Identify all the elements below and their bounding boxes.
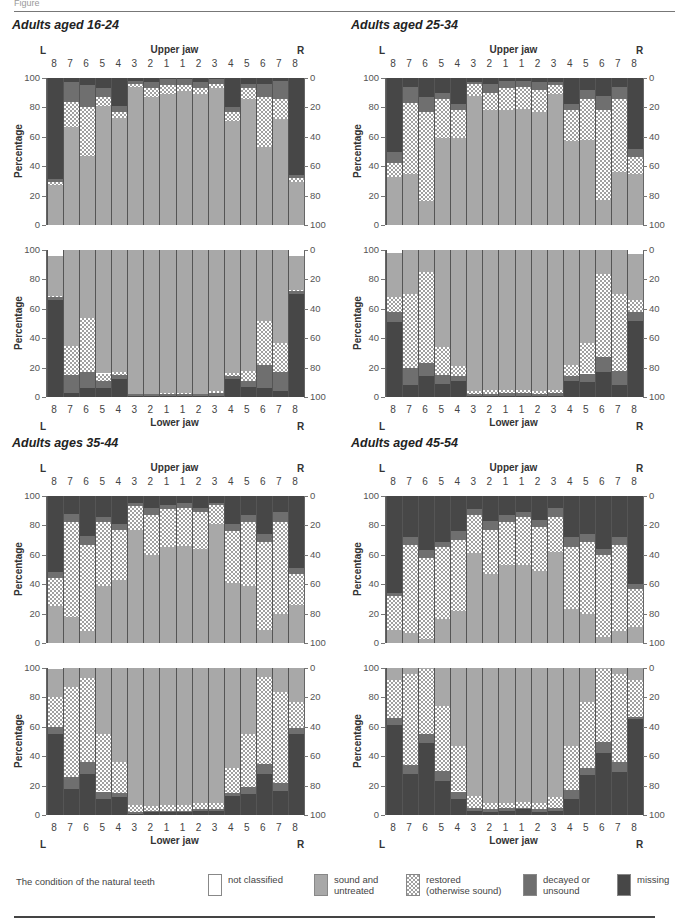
tooth-bar bbox=[95, 250, 111, 397]
axis-tick bbox=[304, 786, 308, 787]
left-axis-label: 100 bbox=[22, 662, 40, 673]
decayed-segment bbox=[580, 374, 595, 383]
restored-segment bbox=[177, 85, 192, 91]
restored-segment bbox=[225, 768, 240, 793]
tooth-bar bbox=[547, 250, 563, 397]
axis-tick bbox=[42, 309, 46, 310]
axis-tick bbox=[304, 78, 308, 79]
panel-25-34: Adults aged 25-34LRUpper jaw876543211234… bbox=[345, 18, 675, 428]
missing-segment bbox=[144, 78, 159, 82]
left-axis-label: 20 bbox=[361, 190, 379, 201]
tooth-number: 1 bbox=[514, 58, 530, 69]
missing-segment bbox=[193, 811, 208, 815]
missing-segment bbox=[112, 379, 127, 397]
tooth-number: 3 bbox=[465, 404, 481, 415]
restored-segment bbox=[209, 84, 224, 88]
notcl-segment bbox=[48, 250, 63, 256]
restored-segment bbox=[112, 762, 127, 793]
missing-segment bbox=[289, 294, 304, 397]
sound-segment bbox=[596, 668, 611, 669]
missing-segment bbox=[483, 812, 498, 815]
restored-segment bbox=[612, 674, 627, 762]
tooth-bar bbox=[224, 250, 240, 397]
tooth-number: 8 bbox=[626, 476, 642, 487]
decayed-segment bbox=[596, 357, 611, 372]
tooth-bar bbox=[482, 250, 498, 397]
missing-segment bbox=[612, 496, 627, 537]
decayed-segment bbox=[128, 81, 143, 84]
sound-segment bbox=[419, 639, 434, 643]
decayed-segment bbox=[548, 508, 563, 517]
tooth-number: 2 bbox=[530, 58, 546, 69]
right-axis-label: 40 bbox=[649, 721, 660, 732]
right-axis-label: 20 bbox=[649, 519, 660, 530]
decayed-segment bbox=[596, 96, 611, 111]
decayed-segment bbox=[467, 808, 482, 811]
left-axis-label: 100 bbox=[361, 244, 379, 255]
tooth-bar bbox=[79, 78, 95, 225]
sound-segment bbox=[532, 250, 547, 391]
axis-tick bbox=[42, 614, 46, 615]
restored-segment bbox=[241, 522, 256, 585]
missing-segment bbox=[483, 78, 498, 84]
decayed-segment bbox=[225, 524, 240, 531]
tooth-number: 6 bbox=[255, 476, 271, 487]
axis-tick bbox=[643, 555, 647, 556]
missing-segment bbox=[435, 78, 450, 93]
missing-segment bbox=[96, 799, 111, 815]
axis-tick bbox=[643, 815, 647, 816]
tooth-number: 5 bbox=[239, 58, 255, 69]
restored-segment bbox=[451, 746, 466, 792]
left-axis-label: 20 bbox=[22, 190, 40, 201]
tooth-number: 7 bbox=[271, 476, 287, 487]
tooth-bar bbox=[240, 496, 256, 643]
tooth-bar bbox=[450, 78, 466, 225]
tooth-number: 6 bbox=[78, 822, 94, 833]
decayed-segment bbox=[532, 809, 547, 812]
decayed-segment bbox=[435, 542, 450, 548]
restored-segment bbox=[451, 110, 466, 138]
restored-segment bbox=[467, 515, 482, 553]
decayed-segment bbox=[532, 520, 547, 527]
right-axis-label: 20 bbox=[310, 691, 321, 702]
sound-segment bbox=[225, 583, 240, 643]
legend-label: (otherwise sound) bbox=[426, 885, 502, 896]
decayed-segment bbox=[403, 368, 418, 386]
missing-segment bbox=[628, 321, 643, 397]
missing-segment bbox=[257, 388, 272, 397]
lower-jaw-plot bbox=[46, 250, 305, 397]
missing-segment bbox=[289, 78, 304, 175]
sound-segment bbox=[483, 668, 498, 803]
lower-jaw-plot bbox=[385, 668, 644, 815]
y-axis-label: Percentage bbox=[352, 714, 363, 768]
tooth-number: 3 bbox=[546, 404, 562, 415]
tooth-bar bbox=[579, 250, 595, 397]
missing-segment bbox=[257, 774, 272, 815]
right-axis-label: 0 bbox=[310, 662, 315, 673]
sound-segment bbox=[387, 177, 402, 226]
tooth-bar bbox=[192, 250, 208, 397]
restored-segment bbox=[612, 545, 627, 632]
tooth-number: 1 bbox=[497, 404, 513, 415]
decayed-segment bbox=[289, 728, 304, 734]
tooth-bar bbox=[498, 250, 514, 397]
decayed-segment bbox=[387, 152, 402, 164]
decayed-segment bbox=[483, 521, 498, 530]
tooth-bar bbox=[418, 250, 434, 397]
right-axis-label: 80 bbox=[310, 780, 321, 791]
tooth-bar bbox=[208, 496, 224, 643]
tooth-bar bbox=[127, 78, 143, 225]
axis-tick bbox=[643, 338, 647, 339]
axis-tick bbox=[381, 309, 385, 310]
missing-segment bbox=[273, 391, 288, 397]
restored-segment bbox=[225, 531, 240, 582]
tooth-number: 1 bbox=[175, 476, 191, 487]
missing-segment bbox=[483, 496, 498, 521]
sound-segment bbox=[596, 250, 611, 274]
decayed-segment bbox=[209, 809, 224, 810]
missing-segment bbox=[241, 794, 256, 815]
left-axis-label: 20 bbox=[361, 608, 379, 619]
tooth-bar bbox=[466, 250, 482, 397]
tooth-number: 4 bbox=[562, 822, 578, 833]
tooth-number: 8 bbox=[626, 58, 642, 69]
